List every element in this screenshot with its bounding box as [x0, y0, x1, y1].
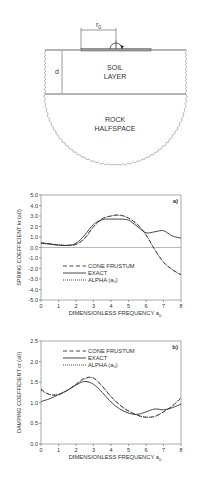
- x-tick-label: 0: [39, 303, 42, 309]
- x-tick-label: 1: [57, 303, 60, 309]
- rock-halfspace-label-2: HALFSPACE: [94, 125, 135, 132]
- y-tick-label: 0.0: [30, 441, 38, 447]
- soil-layer-label: SOIL: [107, 64, 123, 71]
- y-tick-label: 5.0: [30, 192, 38, 198]
- legend-label: ALPHA (a₀): [88, 362, 118, 368]
- y-tick-label: 2.0: [30, 224, 38, 230]
- y-tick-label: 4.0: [30, 203, 38, 209]
- x-tick-label: 2: [74, 447, 77, 453]
- legend-label: EXACT: [88, 270, 108, 276]
- y-tick-label: 2.5: [30, 338, 38, 344]
- x-tick-label: 6: [144, 303, 147, 309]
- series-line: [41, 378, 181, 418]
- x-tick-label: 6: [144, 447, 147, 453]
- y-tick-label: -3.0: [29, 276, 38, 282]
- panel-label: b): [172, 344, 178, 350]
- spring-coefficient-chart: 5.04.03.02.01.00.0-1.0-2.0-3.0-4.0-5.001…: [16, 192, 183, 318]
- rock-halfspace-label: ROCK: [105, 116, 126, 123]
- y-tick-label: -4.0: [29, 287, 38, 293]
- series-line: [41, 219, 181, 245]
- x-tick-label: 4: [109, 447, 112, 453]
- x-tick-label: 3: [92, 447, 95, 453]
- x-tick-label: 7: [162, 303, 165, 309]
- x-tick-label: 1: [57, 447, 60, 453]
- figure: r0 d SOIL LAYER ROCK HALFSPACE 5.04.03.0…: [0, 0, 198, 480]
- x-tick-label: 4: [109, 303, 112, 309]
- y-tick-label: -5.0: [29, 297, 38, 303]
- y-tick-label: 1.0: [30, 234, 38, 240]
- series-line: [41, 381, 181, 414]
- soil-layer-label-2: LAYER: [104, 73, 126, 80]
- y-tick-label: 3.0: [30, 213, 38, 219]
- legend-label: ALPHA (a₀): [88, 277, 118, 283]
- legend-label: EXACT: [88, 355, 108, 361]
- y-axis-label: DAMPING COEFFICIENT cr (a0): [16, 352, 22, 433]
- y-tick-label: -2.0: [29, 266, 38, 272]
- x-axis-label: DIMENSIONLESS FREQUENCY a0: [69, 310, 162, 318]
- y-tick-label: 2.0: [30, 359, 38, 365]
- x-tick-label: 7: [162, 447, 165, 453]
- x-axis-label: DIMENSIONLESS FREQUENCY a0: [69, 454, 162, 462]
- y-tick-label: 0.0: [30, 245, 38, 251]
- r0-label: r0: [96, 21, 101, 30]
- y-tick-label: 0.5: [30, 420, 38, 426]
- panel-label: a): [173, 198, 178, 204]
- x-tick-label: 5: [127, 447, 130, 453]
- legend-label: CONE FRUSTUM: [88, 263, 135, 269]
- d-label: d: [55, 68, 59, 75]
- y-axis-label: SPRING COEFFICIENT kr (a0): [16, 209, 22, 286]
- x-tick-label: 0: [39, 447, 42, 453]
- x-tick-label: 8: [179, 447, 182, 453]
- y-tick-label: -1.0: [29, 255, 38, 261]
- y-tick-label: 1.0: [30, 400, 38, 406]
- x-tick-label: 2: [74, 303, 77, 309]
- y-tick-label: 1.5: [30, 379, 38, 385]
- x-tick-label: 5: [127, 303, 130, 309]
- x-tick-label: 3: [92, 303, 95, 309]
- legend-label: CONE FRUSTUM: [88, 348, 135, 354]
- damping-coefficient-chart: 2.52.01.51.00.50.0012345678DIMENSIONLESS…: [16, 338, 183, 462]
- soil-diagram: r0 d SOIL LAYER ROCK HALFSPACE: [44, 21, 187, 165]
- x-tick-label: 8: [179, 303, 182, 309]
